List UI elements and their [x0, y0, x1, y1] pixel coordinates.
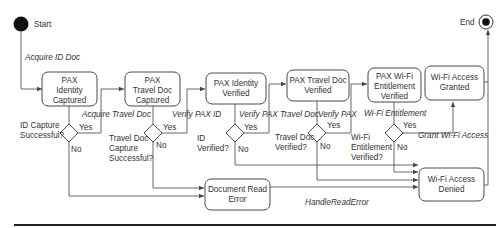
end-label: End — [460, 18, 475, 27]
svg-text:Granted: Granted — [440, 83, 470, 92]
state-pax-identity-captured: PAX Identity Captured — [42, 72, 97, 106]
state-diagram: Start End Acquire ID Doc Acquire Travel … — [0, 0, 504, 228]
edge-denied-to-end — [484, 30, 488, 185]
svg-text:Error: Error — [228, 195, 246, 204]
state-wifi-access-denied: Wi-Fi Access Denied — [419, 168, 484, 201]
svg-text:Verified: Verified — [304, 86, 332, 95]
svg-text:Captured: Captured — [136, 96, 170, 105]
svg-text:Identity: Identity — [56, 86, 83, 95]
svg-text:Capture: Capture — [109, 144, 139, 153]
svg-text:PAX Identity: PAX Identity — [214, 79, 259, 88]
svg-text:Yes: Yes — [163, 123, 176, 132]
svg-text:Travel Doc: Travel Doc — [275, 133, 314, 142]
svg-text:Yes: Yes — [327, 121, 340, 130]
svg-text:ID Capture: ID Capture — [20, 121, 60, 130]
decision-travel-doc-capture-successful: Travel Doc Capture Successful? Yes No — [109, 123, 176, 163]
svg-text:Travel Doc: Travel Doc — [109, 134, 148, 143]
svg-text:Entitlement: Entitlement — [351, 143, 393, 152]
svg-text:PAX Travel Doc: PAX Travel Doc — [289, 76, 346, 85]
label-handle-read-error: HandleReadError — [305, 198, 369, 207]
svg-text:No: No — [156, 141, 167, 150]
label-grant-wifi-access: Grant Wi-Fi Access — [418, 131, 488, 140]
svg-text:No: No — [397, 143, 408, 152]
state-pax-identity-verified: PAX Identity Verified — [206, 73, 266, 104]
label-verify-pax: Verify PAX — [318, 110, 357, 119]
svg-text:Successful?: Successful? — [109, 154, 154, 163]
state-pax-travel-doc-verified: PAX Travel Doc Verified — [287, 70, 349, 101]
svg-text:Entitlement: Entitlement — [374, 82, 416, 91]
svg-text:Successful?: Successful? — [20, 131, 65, 140]
svg-text:PAX: PAX — [145, 76, 161, 85]
label-wifi-entitlement: Wi-Fi Entitlement — [364, 109, 427, 118]
svg-text:Captured: Captured — [53, 96, 87, 105]
label-verify-pax-travel-doc: Verify PAX Travel Doc — [239, 110, 319, 119]
svg-text:No: No — [71, 145, 82, 154]
decision-id-capture-successful: ID Capture Successful? Yes No — [20, 121, 92, 154]
svg-text:No: No — [320, 142, 331, 151]
state-wifi-access-granted: Wi-Fi Access Granted — [425, 66, 484, 100]
label-acquire-travel-doc: Acquire Travel Doc — [81, 110, 151, 119]
svg-text:Yes: Yes — [79, 123, 92, 132]
svg-text:ID: ID — [197, 134, 205, 143]
decision-travel-doc-verified: Travel Doc Verified? Yes No — [275, 121, 340, 152]
svg-text:PAX: PAX — [62, 76, 78, 85]
decision-wifi-entitlement-verified: Wi-Fi Entitlement Verified? Yes No — [351, 121, 416, 162]
svg-text:Verified?: Verified? — [351, 153, 383, 162]
label-acquire-id-doc: Acquire ID Doc — [24, 53, 80, 62]
svg-text:Verified: Verified — [222, 89, 250, 98]
end-node-core-icon — [482, 18, 490, 26]
svg-text:Travel Doc: Travel Doc — [133, 86, 172, 95]
svg-text:Verified?: Verified? — [275, 143, 307, 152]
svg-text:Wi-Fi Access: Wi-Fi Access — [431, 73, 478, 82]
state-pax-wifi-entitlement-verified: PAX Wi-Fi Entitlement Verified — [368, 68, 421, 102]
svg-text:Yes: Yes — [403, 121, 416, 130]
svg-text:Wi-Fi: Wi-Fi — [351, 133, 370, 142]
start-node-icon — [14, 17, 29, 32]
svg-text:Verified?: Verified? — [197, 144, 229, 153]
svg-text:Wi-Fi Access: Wi-Fi Access — [428, 175, 475, 184]
svg-text:Denied: Denied — [439, 185, 465, 194]
decision-id-verified: ID Verified? Yes No — [197, 123, 257, 154]
start-label: Start — [34, 20, 52, 29]
label-verify-pax-id: Verify PAX ID — [172, 110, 221, 119]
svg-text:Verified: Verified — [381, 92, 409, 101]
svg-text:No: No — [238, 145, 249, 154]
svg-text:Document Read: Document Read — [208, 185, 268, 194]
state-pax-travel-doc-captured: PAX Travel Doc Captured — [125, 72, 180, 106]
state-document-read-error: Document Read Error — [205, 179, 270, 210]
svg-text:Yes: Yes — [244, 123, 257, 132]
svg-text:PAX Wi-Fi: PAX Wi-Fi — [376, 72, 413, 81]
